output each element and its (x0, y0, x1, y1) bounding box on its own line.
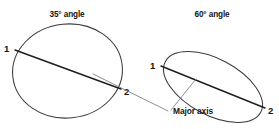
left-point-1-label: 1 (4, 43, 10, 54)
left-ellipse-outline (8, 19, 127, 124)
left-ellipse-group: 35° angle 1 2 (4, 10, 168, 123)
major-axis-caption: Major axis (173, 106, 213, 116)
right-major-axis-line (161, 66, 265, 108)
left-ellipse-title: 35° angle (49, 10, 85, 19)
left-major-axis-line (15, 50, 121, 89)
diagram-canvas: 35° angle 1 2 60° angle 1 2 Major axis (0, 0, 279, 129)
ellipse-angle-diagram: 35° angle 1 2 60° angle 1 2 Major axis (0, 0, 279, 129)
right-ellipse-outline (152, 37, 274, 129)
right-point-2-label: 2 (268, 105, 273, 116)
right-ellipse-title: 60° angle (194, 10, 230, 19)
right-point-1-label: 1 (150, 60, 156, 71)
